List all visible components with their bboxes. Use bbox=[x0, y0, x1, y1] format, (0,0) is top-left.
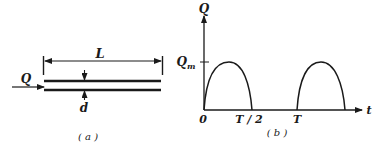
panel-a-caption: ( a ) bbox=[78, 131, 98, 142]
panel-b-flow-graph: Q t Qm 0 T / 2 T ( b ) bbox=[177, 2, 372, 138]
y-axis-label: Q bbox=[199, 2, 210, 16]
half-period-label: T / 2 bbox=[235, 113, 263, 126]
panel-b-caption: ( b ) bbox=[267, 127, 288, 138]
diameter-label: d bbox=[80, 101, 89, 115]
period-label: T bbox=[293, 113, 302, 126]
peak-label: Qm bbox=[177, 55, 196, 71]
flow-label: Q bbox=[21, 72, 32, 86]
flow-pulse-2 bbox=[297, 62, 345, 110]
flow-pulse-1 bbox=[204, 62, 252, 110]
origin-label: 0 bbox=[199, 113, 207, 126]
length-label: L bbox=[94, 46, 104, 61]
figure: L Q d ( a ) Q t Qm 0 T / 2 T ( b ) bbox=[0, 0, 385, 149]
x-axis-label: t bbox=[366, 104, 371, 117]
panel-a-pipe-diagram: L Q d ( a ) bbox=[12, 46, 163, 142]
